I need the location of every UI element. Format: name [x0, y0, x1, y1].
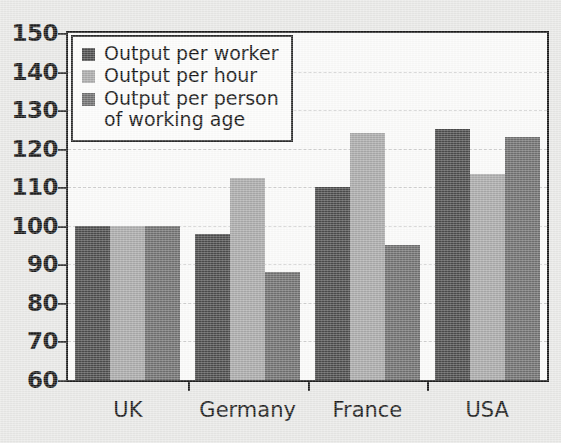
- y-tick-mark-80: [58, 303, 66, 305]
- bar-germany-series2: [230, 178, 265, 380]
- bar-germany-series3: [265, 272, 300, 380]
- y-tick-label-120: 120: [0, 137, 58, 160]
- bar-france-series2: [350, 133, 385, 380]
- x-tick-mark-3: [427, 382, 429, 391]
- y-tick-mark-90: [58, 264, 66, 266]
- bar-group-france: [308, 33, 428, 380]
- chart-legend: Output per workerOutput per hourOutput p…: [71, 35, 293, 142]
- y-tick-label-140: 140: [0, 60, 58, 83]
- y-tick-mark-130: [58, 110, 66, 112]
- y-tick-mark-110: [58, 187, 66, 189]
- bar-uk-series1: [75, 226, 110, 380]
- legend-label-3: Output per person of working age: [104, 88, 279, 131]
- legend-swatch-icon-2: [82, 70, 95, 83]
- y-tick-mark-120: [58, 149, 66, 151]
- y-tick-mark-140: [58, 72, 66, 74]
- bar-uk-series2: [110, 226, 145, 380]
- bar-chart: 15014013012011010090807060 UKGermanyFran…: [0, 0, 561, 443]
- bar-france-series1: [315, 187, 350, 380]
- x-tick-label-uk: UK: [113, 400, 142, 421]
- legend-swatch-icon-3: [82, 93, 95, 106]
- legend-label-1: Output per worker: [104, 43, 278, 64]
- y-tick-mark-100: [58, 226, 66, 228]
- x-tick-mark-1: [188, 382, 190, 391]
- x-tick-label-usa: USA: [465, 400, 508, 421]
- bar-usa-series2: [470, 174, 505, 380]
- legend-swatch-icon-1: [82, 48, 95, 61]
- x-tick-label-france: France: [332, 400, 402, 421]
- legend-label-2: Output per hour: [104, 65, 257, 86]
- y-tick-label-60: 60: [0, 369, 58, 392]
- x-axis: UKGermanyFranceUSA: [66, 392, 549, 432]
- y-tick-label-90: 90: [0, 253, 58, 276]
- x-tick-mark-2: [308, 382, 310, 391]
- x-tick-label-germany: Germany: [199, 400, 296, 421]
- y-axis: 15014013012011010090807060: [0, 0, 58, 443]
- bar-usa-series1: [435, 129, 470, 380]
- legend-item-1[interactable]: Output per worker: [82, 43, 283, 64]
- bar-group-usa: [427, 33, 547, 380]
- y-tick-label-100: 100: [0, 214, 58, 237]
- y-tick-label-70: 70: [0, 330, 58, 353]
- y-tick-label-130: 130: [0, 99, 58, 122]
- y-tick-mark-150: [58, 33, 66, 35]
- bar-usa-series3: [505, 137, 540, 380]
- legend-item-3[interactable]: Output per person of working age: [82, 88, 283, 131]
- y-tick-label-110: 110: [0, 176, 58, 199]
- y-tick-label-150: 150: [0, 22, 58, 45]
- y-tick-mark-60: [58, 380, 66, 382]
- bar-france-series3: [385, 245, 420, 380]
- bar-uk-series3: [145, 226, 180, 380]
- y-tick-label-80: 80: [0, 291, 58, 314]
- bar-germany-series1: [195, 234, 230, 381]
- legend-item-2[interactable]: Output per hour: [82, 65, 283, 86]
- y-tick-mark-70: [58, 341, 66, 343]
